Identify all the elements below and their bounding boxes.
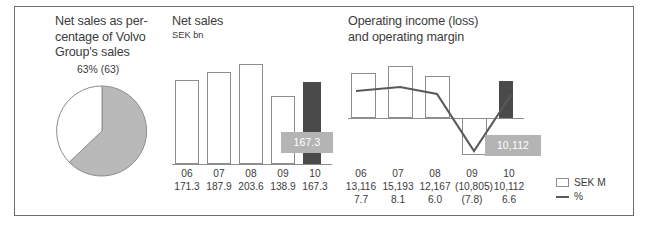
operating-margin-10: 6.6	[494, 194, 524, 205]
operating-sek-10: 10,112	[489, 181, 529, 192]
pie-svg	[55, 84, 149, 178]
operating-margin-09: (7.8)	[455, 194, 489, 205]
pie-chart	[55, 84, 149, 178]
operating-panel-title: Operating income (loss) and operating ma…	[348, 14, 538, 45]
operating-margin-07: 8.1	[383, 194, 413, 205]
operating-cat-08: 08	[420, 168, 450, 179]
operating-callout: 10,112	[485, 135, 541, 156]
net-sales-baseline	[172, 164, 332, 165]
operating-sek-08: 12,167	[415, 181, 455, 192]
net-sales-callout: 167.3	[281, 132, 333, 153]
operating-cat-09: 09	[457, 168, 487, 179]
net-sales-bar-chart: 167.3	[172, 56, 332, 166]
net-sales-cat-09: 09	[268, 168, 298, 179]
net-sales-cat-10: 10	[300, 168, 330, 179]
operating-cat-07: 07	[383, 168, 413, 179]
pie-title-line-2: centage of Volvo	[55, 30, 167, 46]
operating-margin-08: 6.0	[420, 194, 450, 205]
pie-title-line-3: Group's sales	[55, 45, 167, 61]
operating-cat-10: 10	[494, 168, 524, 179]
legend-label-percent: %	[574, 191, 583, 202]
operating-margin-06: 7.7	[346, 194, 376, 205]
pie-panel-title: Net sales as per- centage of Volvo Group…	[55, 14, 167, 61]
net-sales-panel-title: Net sales	[172, 14, 292, 30]
net-sales-panel-subtitle: SEK bn	[172, 30, 204, 41]
operating-sek-06: 13,116	[341, 181, 381, 192]
net-sales-val-10: 167.3	[297, 181, 333, 192]
net-sales-bar-07	[207, 72, 231, 164]
net-sales-cat-06: 06	[172, 168, 202, 179]
legend-label-sek-m: SEK M	[574, 177, 606, 188]
operating-title-line-2: and operating margin	[348, 30, 538, 46]
operating-bar-chart: 10,112	[348, 60, 524, 166]
net-sales-val-08: 203.6	[233, 181, 269, 192]
net-sales-val-06: 171.3	[169, 181, 205, 192]
net-sales-bar-08	[239, 64, 263, 164]
net-sales-bar-09	[271, 96, 295, 164]
net-sales-bar-06	[175, 80, 199, 164]
net-sales-val-09: 138.9	[265, 181, 301, 192]
box-outline-icon	[556, 178, 569, 187]
line-icon	[556, 196, 569, 198]
operating-cat-06: 06	[346, 168, 376, 179]
pie-title-line-1: Net sales as per-	[55, 14, 167, 30]
legend-item-percent: %	[556, 190, 636, 203]
operating-title-line-1: Operating income (loss)	[348, 14, 538, 30]
chart-legend: SEK M %	[556, 176, 636, 204]
pie-value-label: 63% (63)	[77, 64, 119, 75]
legend-item-sek-m: SEK M	[556, 176, 636, 189]
net-sales-val-07: 187.9	[201, 181, 237, 192]
net-sales-cat-08: 08	[236, 168, 266, 179]
figure-root: Net sales as per- centage of Volvo Group…	[0, 0, 646, 229]
net-sales-cat-07: 07	[204, 168, 234, 179]
operating-sek-07: 15,193	[378, 181, 418, 192]
